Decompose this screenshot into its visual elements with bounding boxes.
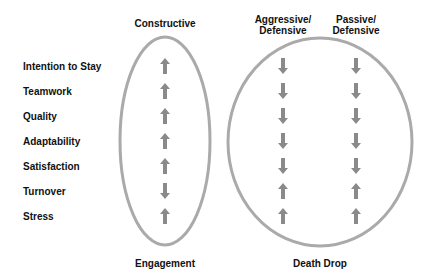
arrow-down-icon <box>278 83 288 99</box>
arrow-down-icon <box>351 83 361 99</box>
arrow-up-icon <box>278 208 288 224</box>
arrow-down-icon <box>351 108 361 124</box>
arrow-up-icon <box>278 183 288 199</box>
death-drop-ellipse <box>228 38 412 246</box>
arrow-up-icon <box>351 183 361 199</box>
arrow-down-icon <box>278 158 288 174</box>
arrow-down-icon <box>278 108 288 124</box>
arrow-group <box>160 58 361 224</box>
arrow-up-icon <box>160 158 170 174</box>
arrow-up-icon <box>160 108 170 124</box>
diagram-canvas <box>0 0 425 280</box>
arrow-down-icon <box>160 183 170 199</box>
arrow-down-icon <box>351 133 361 149</box>
arrow-down-icon <box>351 58 361 74</box>
arrow-up-icon <box>160 58 170 74</box>
arrow-up-icon <box>160 133 170 149</box>
arrow-up-icon <box>160 208 170 224</box>
arrow-up-icon <box>351 208 361 224</box>
arrow-up-icon <box>160 83 170 99</box>
arrow-down-icon <box>278 58 288 74</box>
arrow-down-icon <box>278 133 288 149</box>
arrow-down-icon <box>351 158 361 174</box>
